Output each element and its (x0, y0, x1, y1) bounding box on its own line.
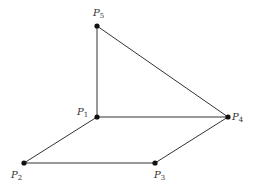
point-p3 (152, 160, 157, 165)
edge-p5-p4 (97, 26, 228, 117)
label-p4: P4 (231, 111, 244, 124)
edge-p1-p2 (24, 117, 97, 163)
point-p5 (94, 23, 99, 28)
label-p5: P5 (92, 7, 104, 20)
point-p2 (21, 160, 26, 165)
edges-group (24, 26, 228, 163)
point-p1 (94, 114, 99, 119)
label-p1: P1 (76, 106, 88, 119)
label-p3: P3 (153, 169, 165, 182)
diagram-canvas: P1P2P3P4P5 (0, 0, 253, 186)
edge-p3-p4 (155, 117, 228, 163)
point-p4 (225, 114, 230, 119)
label-p2: P2 (10, 169, 22, 182)
labels-group: P1P2P3P4P5 (10, 7, 244, 182)
points-group (21, 23, 230, 165)
